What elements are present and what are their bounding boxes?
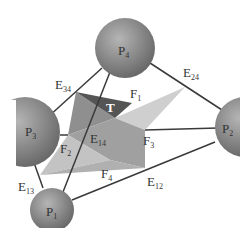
label-f1: F1 <box>130 86 141 103</box>
label-t: T <box>106 100 115 115</box>
label-e13: E13 <box>18 179 34 196</box>
label-e12: E12 <box>147 174 163 191</box>
label-f3: F3 <box>143 133 154 150</box>
tetrahedron-diagram: P4 P2 P3 P1 E34 E24 E14 E12 E13 F1 F2 F3… <box>0 0 251 237</box>
label-e34: E34 <box>55 77 71 94</box>
label-e24: E24 <box>183 65 199 82</box>
